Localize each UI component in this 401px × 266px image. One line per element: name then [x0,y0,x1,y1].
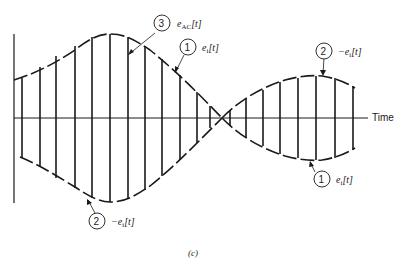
callout-2-neg-ei-left: 2 −ei[t] [87,199,135,229]
svg-text:1: 1 [185,42,191,53]
svg-text:ei[t]: ei[t] [336,174,353,187]
svg-text:−ei[t]: −ei[t] [338,46,362,59]
callout-1-ei-lower: 1 ei[t] [309,161,353,187]
svg-text:ei[t]: ei[t] [202,42,219,55]
lower-envelope-left [20,118,222,202]
callout-2-neg-ei-right: 2 −ei[t] [316,43,362,76]
svg-text:2: 2 [94,216,100,227]
figure-caption: (c) [188,248,198,258]
svg-text:2: 2 [321,46,327,57]
svg-text:−ei[t]: −ei[t] [111,216,135,229]
callout-1-ei-upper: 1 ei[t] [175,39,219,73]
amplitude-modulation-diagram: Time 3 eAC[t] [0,0,401,266]
svg-text:1: 1 [319,174,325,185]
svg-text:eAC[t]: eAC[t] [177,18,202,31]
svg-text:3: 3 [159,18,165,29]
time-axis-label: Time [372,112,394,123]
